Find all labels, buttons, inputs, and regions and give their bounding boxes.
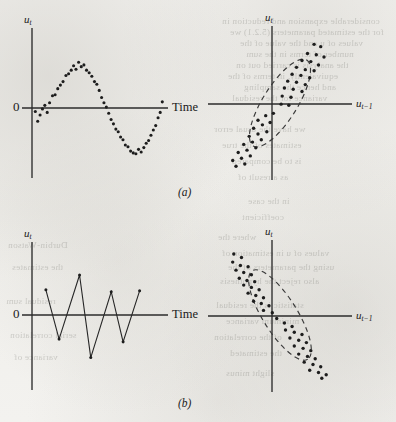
data-point bbox=[293, 331, 296, 334]
data-point bbox=[90, 75, 93, 78]
data-point bbox=[309, 60, 312, 63]
data-point bbox=[159, 111, 162, 114]
data-point bbox=[112, 122, 115, 125]
data-point bbox=[309, 349, 312, 352]
b-right-confidence-ellipse bbox=[238, 262, 323, 369]
data-point bbox=[102, 101, 105, 104]
data-point bbox=[289, 96, 292, 99]
data-point bbox=[107, 112, 110, 115]
data-point bbox=[301, 347, 304, 350]
data-point bbox=[312, 69, 315, 72]
data-point bbox=[290, 325, 293, 328]
data-point bbox=[288, 336, 291, 339]
data-point bbox=[284, 328, 287, 331]
data-point bbox=[121, 138, 124, 141]
data-point bbox=[117, 130, 120, 133]
data-point bbox=[242, 271, 245, 274]
data-point bbox=[95, 83, 98, 86]
chart-b-left bbox=[22, 242, 168, 390]
data-point bbox=[275, 317, 278, 320]
data-point bbox=[234, 268, 237, 271]
b-left-series-line bbox=[46, 275, 140, 358]
data-point bbox=[287, 104, 290, 107]
data-point bbox=[110, 118, 113, 121]
data-point bbox=[147, 139, 150, 142]
data-point bbox=[312, 43, 315, 46]
data-point bbox=[74, 68, 77, 71]
data-point bbox=[238, 277, 241, 280]
b-left-y-axis-label: ut bbox=[24, 227, 32, 241]
data-point bbox=[292, 88, 295, 91]
data-point bbox=[100, 96, 103, 99]
data-point bbox=[44, 288, 47, 291]
data-point bbox=[246, 265, 249, 268]
data-point bbox=[249, 154, 252, 157]
data-point bbox=[250, 286, 253, 289]
data-point bbox=[61, 80, 64, 83]
data-point bbox=[237, 151, 240, 154]
data-point bbox=[85, 69, 88, 72]
a-right-x-axis-label: ut−1 bbox=[356, 97, 372, 111]
data-point bbox=[142, 146, 145, 149]
data-point bbox=[317, 63, 320, 66]
data-point bbox=[140, 150, 143, 153]
data-point bbox=[262, 309, 265, 312]
data-point bbox=[246, 291, 249, 294]
data-point bbox=[88, 71, 91, 74]
data-point bbox=[256, 132, 259, 135]
data-point bbox=[297, 352, 300, 355]
data-point bbox=[253, 280, 256, 283]
data-point bbox=[245, 148, 248, 151]
data-point bbox=[260, 302, 263, 305]
a-left-x-axis-label: Time bbox=[172, 100, 198, 115]
data-point bbox=[308, 76, 311, 79]
data-point bbox=[251, 140, 254, 143]
data-point bbox=[283, 321, 286, 324]
data-point bbox=[304, 83, 307, 86]
data-point bbox=[157, 116, 160, 119]
data-point bbox=[161, 100, 164, 103]
data-point bbox=[67, 72, 70, 75]
data-point bbox=[138, 289, 141, 292]
data-point bbox=[232, 252, 235, 255]
data-point bbox=[304, 68, 307, 71]
data-point bbox=[305, 341, 308, 344]
data-point bbox=[231, 260, 234, 263]
data-point bbox=[317, 371, 320, 374]
data-point bbox=[124, 143, 127, 146]
data-point bbox=[300, 59, 303, 62]
data-point bbox=[119, 135, 122, 138]
data-point bbox=[252, 300, 255, 303]
chart-a-left bbox=[22, 28, 168, 178]
a-right-y-axis-label: ut bbox=[265, 11, 273, 25]
data-point bbox=[231, 159, 234, 162]
b-right-x-axis-label: ut−1 bbox=[356, 309, 372, 323]
data-point bbox=[137, 148, 140, 151]
data-point bbox=[295, 66, 298, 69]
data-point bbox=[54, 93, 57, 96]
data-point bbox=[314, 357, 317, 360]
data-point bbox=[286, 79, 289, 82]
data-point bbox=[315, 53, 318, 56]
data-point bbox=[89, 356, 92, 359]
data-point bbox=[82, 63, 85, 66]
data-point bbox=[78, 274, 81, 277]
caption-panel-a: (a) bbox=[178, 186, 191, 198]
data-point bbox=[154, 124, 157, 127]
data-point bbox=[299, 74, 302, 77]
data-point bbox=[70, 69, 73, 72]
data-point bbox=[242, 143, 245, 146]
data-point bbox=[58, 338, 61, 341]
data-point bbox=[283, 86, 286, 89]
data-point bbox=[295, 81, 298, 84]
data-point bbox=[80, 65, 83, 68]
data-point bbox=[300, 90, 303, 93]
data-point bbox=[308, 369, 311, 372]
data-point bbox=[134, 152, 137, 155]
data-point bbox=[43, 104, 46, 107]
data-point bbox=[126, 145, 129, 148]
data-point bbox=[234, 165, 237, 168]
data-point bbox=[77, 61, 80, 64]
data-point bbox=[72, 64, 75, 67]
data-point bbox=[252, 127, 255, 130]
